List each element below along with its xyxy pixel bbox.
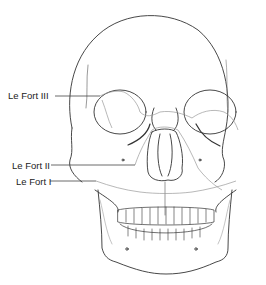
lefort-ii-fracture <box>135 127 222 190</box>
skull-diagram <box>0 0 266 285</box>
cranium-outline <box>70 16 228 182</box>
label-le-fort-ii: Le Fort II <box>12 160 50 171</box>
lefort-i-fracture <box>96 181 236 194</box>
label-le-fort-i: Le Fort I <box>16 176 51 187</box>
right-orbit <box>94 90 146 134</box>
label-le-fort-iii: Le Fort III <box>8 90 49 101</box>
nasal-cavity <box>147 129 182 181</box>
lower-teeth <box>120 224 212 233</box>
lefort-iii-fracture <box>100 91 238 130</box>
